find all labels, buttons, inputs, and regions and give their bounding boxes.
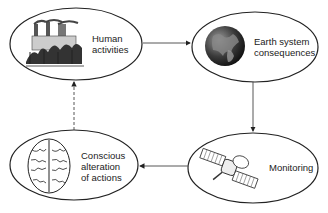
label-human-activities: Human activities xyxy=(92,33,128,55)
label-line: alteration xyxy=(81,161,125,172)
globe-icon xyxy=(205,26,245,66)
cycle-diagram xyxy=(0,0,328,213)
label-line: consequences xyxy=(254,47,315,58)
label-monitoring: Monitoring xyxy=(269,162,313,173)
label-line: Conscious xyxy=(81,150,125,161)
label-line: Monitoring xyxy=(269,162,313,173)
label-earth-system-consequences: Earth system consequences xyxy=(254,36,315,58)
label-line: of actions xyxy=(81,172,125,183)
brain-icon xyxy=(28,139,70,193)
label-conscious-alteration: Conscious alteration of actions xyxy=(81,150,125,183)
label-line: Earth system xyxy=(254,36,315,47)
label-line: Human xyxy=(92,33,128,44)
label-line: activities xyxy=(92,44,128,55)
